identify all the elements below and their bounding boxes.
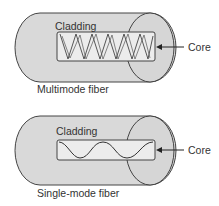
fiber-diagram — [0, 0, 219, 206]
single-mode-fiber-cylinder — [15, 116, 184, 185]
multimode-fiber-cylinder — [15, 13, 184, 82]
multimode-caption: Multimode fiber — [37, 83, 109, 95]
core-label: Core — [188, 144, 211, 156]
single-mode-caption: Single-mode fiber — [37, 187, 119, 199]
cladding-label: Cladding — [55, 20, 96, 32]
core-label: Core — [188, 41, 211, 53]
cladding-label: Cladding — [56, 125, 97, 137]
